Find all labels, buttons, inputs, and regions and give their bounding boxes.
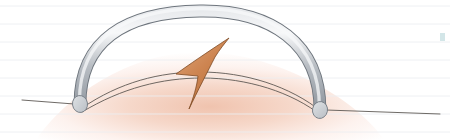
scan-artifact-mark bbox=[440, 33, 445, 41]
illustration-figure: Surgical illustration: arched tube over … bbox=[0, 0, 450, 140]
illustration-canvas bbox=[0, 0, 450, 140]
